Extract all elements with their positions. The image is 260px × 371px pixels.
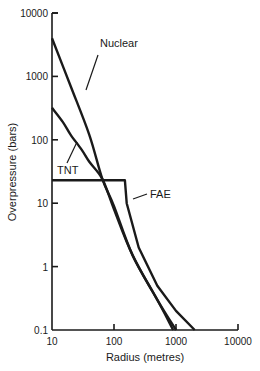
x-tick-label: 1000 bbox=[165, 336, 188, 347]
nuclear-leader-line bbox=[86, 55, 98, 90]
series-layer: NuclearTNTFAE bbox=[52, 37, 195, 330]
fae-label: FAE bbox=[150, 188, 171, 200]
y-tick-label: 1 bbox=[42, 262, 48, 273]
y-tick-label: 100 bbox=[31, 135, 48, 146]
y-tick-label: 0.1 bbox=[34, 325, 48, 336]
x-axis-label: Radius (metres) bbox=[106, 351, 184, 363]
nuclear-curve bbox=[52, 38, 173, 330]
series-fae: FAE bbox=[52, 180, 195, 330]
series-nuclear: Nuclear bbox=[52, 37, 173, 330]
series-tnt: TNT bbox=[52, 108, 176, 330]
chart: 0.1110100100010000 10100100010000 Radius… bbox=[0, 0, 260, 371]
fae-curve bbox=[52, 180, 195, 330]
tnt-curve bbox=[52, 108, 176, 330]
x-tick-label: 10000 bbox=[224, 336, 252, 347]
tnt-label: TNT bbox=[57, 164, 79, 176]
x-tick-label: 100 bbox=[106, 336, 123, 347]
nuclear-label: Nuclear bbox=[100, 37, 138, 49]
x-axis: 10100100010000 bbox=[46, 324, 252, 347]
y-axis-label: Overpressure (bars) bbox=[6, 123, 18, 221]
y-tick-label: 1000 bbox=[26, 71, 49, 82]
fae-leader-line bbox=[133, 194, 147, 199]
y-tick-label: 10000 bbox=[20, 8, 48, 19]
y-tick-label: 10 bbox=[37, 198, 49, 209]
y-axis: 0.1110100100010000 bbox=[20, 8, 58, 336]
x-tick-label: 10 bbox=[46, 336, 58, 347]
tnt-leader-line bbox=[67, 142, 77, 163]
